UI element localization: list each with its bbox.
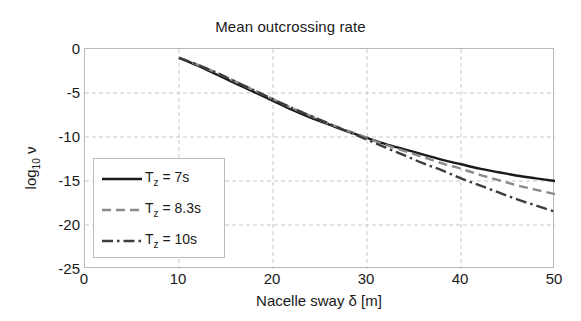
legend-item-label: Tz = 10s: [145, 231, 197, 250]
legend-item-label: Tz = 7s: [145, 169, 189, 188]
x-tick-label: 20: [252, 270, 292, 287]
legend: Tz = 7sTz = 8.3sTz = 10s: [93, 158, 225, 258]
y-tick-label: -20: [0, 216, 80, 233]
y-axis-subscript: 10: [31, 158, 42, 169]
legend-item: Tz = 10s: [94, 225, 224, 256]
x-tick-label: 10: [158, 270, 198, 287]
legend-rows: Tz = 7sTz = 8.3sTz = 10s: [94, 163, 224, 256]
legend-line-sample: [101, 203, 143, 217]
x-tick-label: 0: [64, 270, 104, 287]
legend-label-main: T: [145, 200, 154, 216]
legend-label-rest: = 10s: [159, 231, 198, 247]
x-tick-label: 50: [534, 270, 574, 287]
legend-label-main: T: [145, 231, 154, 247]
legend-label-rest: = 7s: [159, 169, 190, 185]
legend-line-sample: [101, 172, 143, 186]
legend-label-main: T: [145, 169, 154, 185]
chart-title: Mean outcrossing rate: [0, 18, 581, 35]
legend-item: Tz = 7s: [94, 163, 224, 194]
x-tick-label: 30: [346, 270, 386, 287]
y-tick-label: -15: [0, 172, 80, 189]
legend-item: Tz = 8.3s: [94, 194, 224, 225]
legend-item-label: Tz = 8.3s: [145, 200, 201, 219]
y-tick-label: -10: [0, 128, 80, 145]
chart-figure: Mean outcrossing rate log10 ν 0-5-10-15-…: [0, 0, 581, 321]
x-tick-label: 40: [440, 270, 480, 287]
x-axis-title: Nacelle sway δ [m]: [84, 292, 554, 309]
y-tick-label: -5: [0, 84, 80, 101]
y-tick-label: 0: [0, 40, 80, 57]
legend-label-rest: = 8.3s: [159, 200, 201, 216]
y-axis-title: log10 ν: [22, 108, 42, 228]
legend-line-sample: [101, 234, 143, 248]
